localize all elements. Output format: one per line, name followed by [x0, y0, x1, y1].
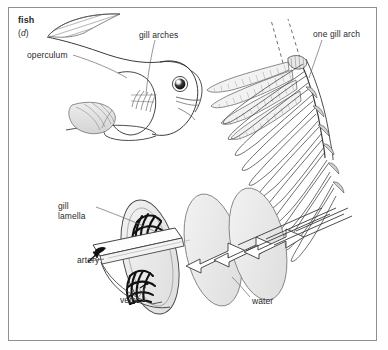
figure-title-label: fish	[18, 16, 34, 26]
panel-letter-italic: d	[21, 28, 26, 38]
pectoral-fin	[69, 102, 116, 133]
one-gill-arch-label: one gill arch	[313, 30, 360, 40]
fish-body-outline	[47, 37, 192, 72]
gill-rakers	[306, 87, 344, 193]
gill-arches-leader-line	[146, 40, 155, 94]
artery-label: artery	[77, 256, 99, 266]
fish-head-panel	[47, 14, 202, 141]
gill-lamella-label-line2: lamella	[58, 211, 86, 221]
one-gill-arch-leader-line	[309, 40, 322, 78]
water-label: water	[252, 297, 273, 307]
gill-filaments-small	[131, 90, 156, 112]
fish-eye	[172, 76, 187, 91]
gill-lamella-label: gilllamella	[58, 202, 86, 222]
gill-arches-label: gill arches	[139, 31, 178, 41]
dorsal-fin-hatching	[48, 14, 120, 37]
panel-letter-label: (d)	[18, 29, 29, 39]
operculum-label: operculum	[27, 51, 68, 61]
vein-label: vein	[120, 296, 136, 306]
gill-lamella-label-line1: gill	[58, 201, 69, 211]
figure-container: fish (d) operculum gill arches one gill …	[0, 0, 388, 350]
